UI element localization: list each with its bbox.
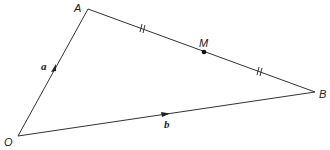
- arrow-a-icon: [51, 64, 56, 72]
- label-O: O: [4, 137, 13, 148]
- label-vector-b: b: [164, 119, 170, 130]
- label-M: M: [199, 38, 208, 49]
- label-B: B: [319, 89, 326, 100]
- midpoint-M-dot: [202, 50, 207, 55]
- vector-diagram: A B O M a b: [0, 0, 330, 150]
- segment-AB: [88, 9, 315, 92]
- arrow-b-icon: [161, 112, 170, 117]
- label-A: A: [74, 3, 81, 14]
- segment-OA: [18, 9, 88, 136]
- label-vector-a: a: [41, 61, 47, 72]
